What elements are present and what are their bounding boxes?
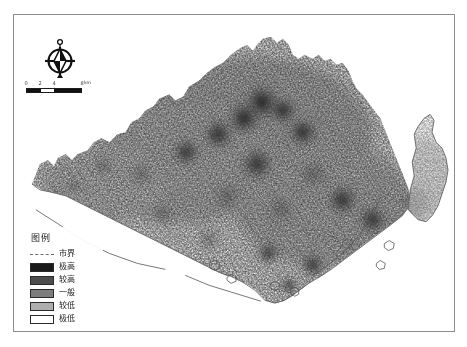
scale-tick-0: 0 bbox=[24, 79, 27, 88]
legend-item-label: 市界 bbox=[59, 249, 75, 259]
scale-bar-graphic bbox=[26, 88, 82, 93]
scale-tick-1: 2 bbox=[38, 79, 41, 88]
legend: 图例 市界 极高 较高 一般 较低 极低 bbox=[25, 227, 103, 331]
density-hotspot bbox=[321, 279, 341, 299]
legend-item-very-low[interactable]: 极低 bbox=[30, 313, 99, 325]
city-boundary-swatch bbox=[30, 250, 54, 259]
legend-item-high[interactable]: 较高 bbox=[30, 274, 99, 286]
legend-item-city-boundary[interactable]: 市界 bbox=[30, 248, 99, 260]
legend-item-low[interactable]: 较低 bbox=[30, 300, 99, 312]
very-low-swatch bbox=[30, 315, 54, 324]
legend-title: 图例 bbox=[31, 231, 99, 244]
high-swatch bbox=[30, 276, 54, 285]
scale-tick-2: 4 bbox=[52, 79, 55, 88]
map-page: { "map": { "title": "", "frame": { "bord… bbox=[0, 0, 467, 347]
low-swatch bbox=[30, 302, 54, 311]
north-arrow-icon bbox=[36, 37, 84, 81]
legend-item-label: 较高 bbox=[59, 275, 75, 285]
legend-item-label: 极低 bbox=[59, 314, 75, 324]
map-frame: 0 2 4 8 km 图例 市界 极高 较高 一般 bbox=[13, 14, 455, 332]
legend-item-label: 较低 bbox=[59, 301, 75, 311]
very-high-swatch bbox=[30, 263, 54, 272]
legend-item-medium[interactable]: 一般 bbox=[30, 287, 99, 299]
legend-item-label: 极高 bbox=[59, 262, 75, 272]
legend-item-label: 一般 bbox=[59, 288, 75, 298]
medium-swatch bbox=[30, 289, 54, 298]
scale-bar-unit: km bbox=[84, 80, 91, 85]
legend-item-very-high[interactable]: 极高 bbox=[30, 261, 99, 273]
scale-bar: 0 2 4 8 km bbox=[26, 79, 96, 93]
